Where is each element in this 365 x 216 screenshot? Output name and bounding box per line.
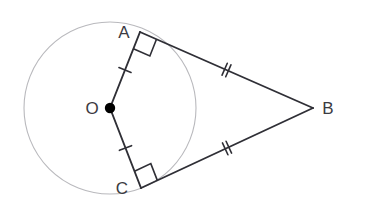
point-label-c: C	[116, 179, 128, 198]
segments-group	[110, 32, 313, 188]
point-label-b: B	[322, 99, 333, 118]
geometry-canvas: A B C O	[0, 0, 365, 216]
tangent-AB	[140, 32, 313, 108]
point-label-a: A	[118, 23, 130, 42]
point-label-o: O	[85, 99, 98, 118]
tick-marks-group	[119, 63, 232, 154]
right-angle-markers-group	[133, 39, 157, 180]
tangent-CB	[141, 108, 313, 188]
geometry-figure: A B C O	[0, 0, 365, 216]
center-point-dot	[105, 103, 115, 113]
